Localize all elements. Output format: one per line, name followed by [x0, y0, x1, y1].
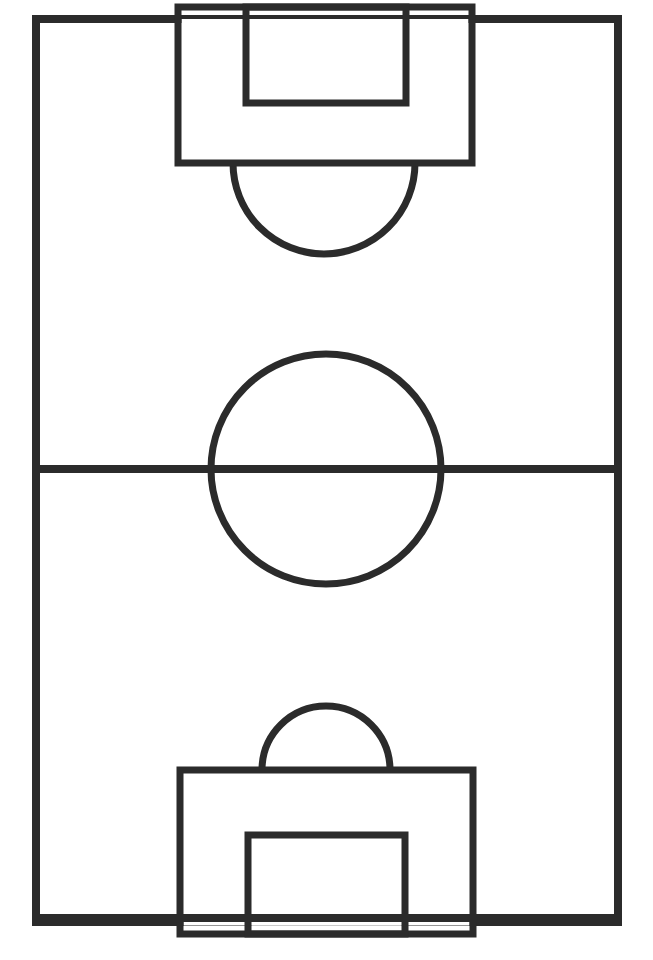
- pitch-figure: [0, 0, 653, 960]
- bottom-goal-area-fill: [252, 839, 402, 926]
- top-goal-area-fill: [250, 19, 403, 100]
- pitch-diagram-svg: [0, 0, 653, 960]
